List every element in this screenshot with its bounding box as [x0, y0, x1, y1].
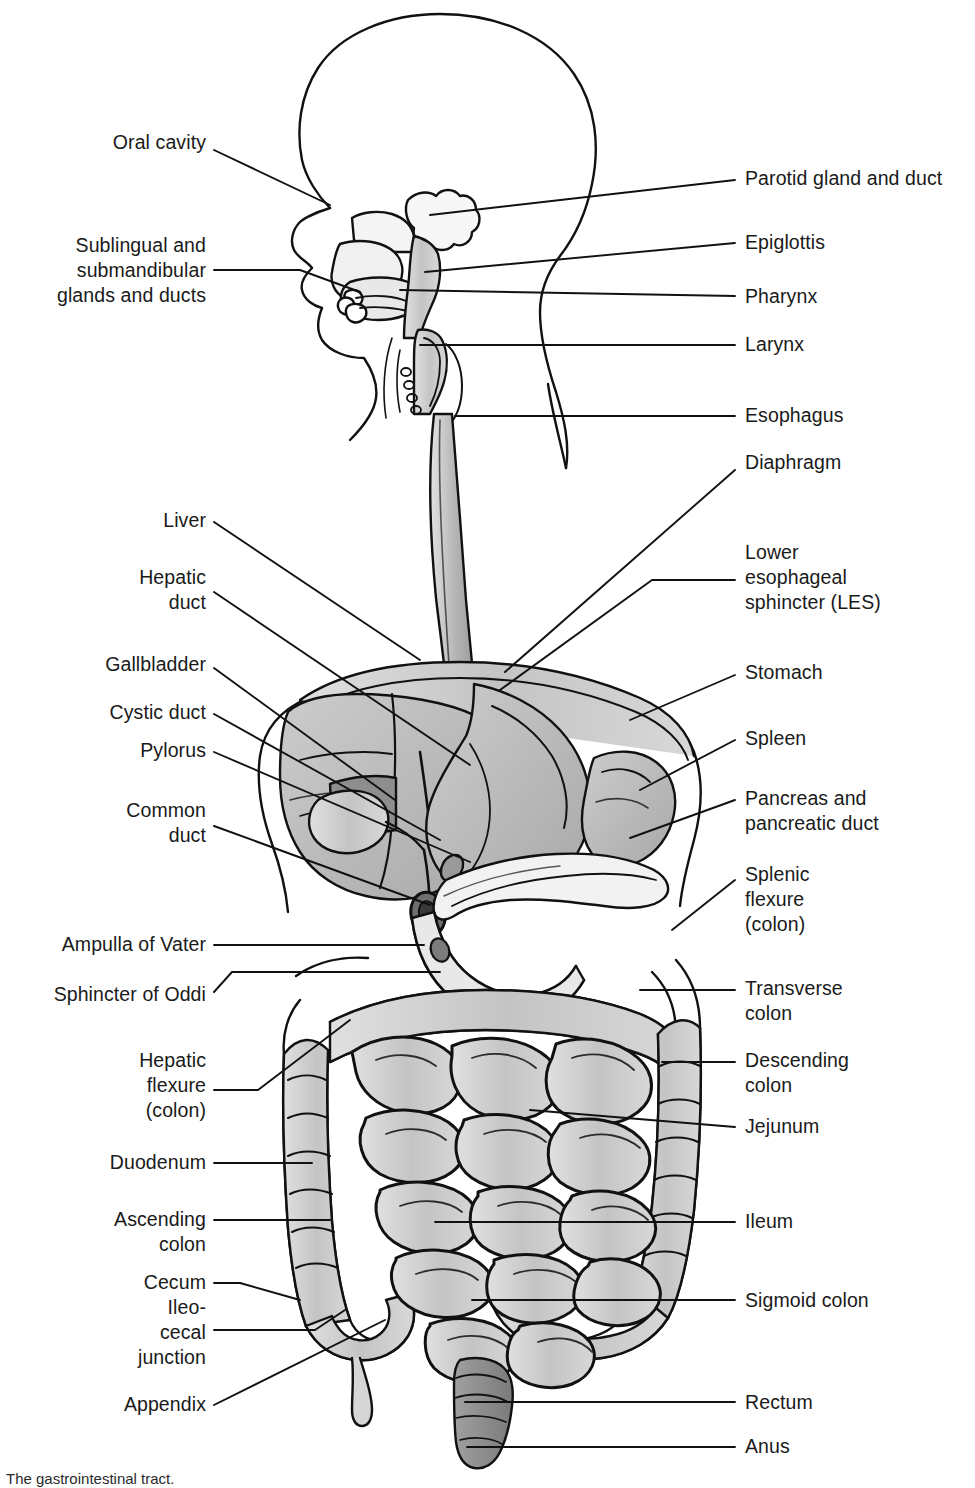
leader-cecum-ileocecal — [214, 1283, 300, 1300]
label-hepatic-duct: Hepatic duct — [8, 565, 206, 615]
label-appendix: Appendix — [8, 1392, 206, 1417]
label-ileum: Ileum — [745, 1209, 793, 1234]
label-esophagus: Esophagus — [745, 403, 843, 428]
label-jejunum: Jejunum — [745, 1114, 819, 1139]
label-gallbladder: Gallbladder — [8, 652, 206, 677]
label-duodenum: Duodenum — [8, 1150, 206, 1175]
leader-diaphragm — [505, 470, 735, 672]
appendix — [352, 1358, 372, 1426]
label-cystic-duct: Cystic duct — [8, 700, 206, 725]
figure-canvas: Oral cavitySublingual and submandibular … — [0, 0, 975, 1488]
label-pylorus: Pylorus — [8, 738, 206, 763]
leader-sphincter-of-oddi — [214, 972, 440, 992]
label-hepatic-flexure: Hepatic flexure (colon) — [8, 1048, 206, 1123]
label-epiglottis: Epiglottis — [745, 230, 825, 255]
label-splenic-flexure: Splenic flexure (colon) — [745, 862, 810, 937]
label-anus: Anus — [745, 1434, 790, 1459]
label-sublingual: Sublingual and submandibular glands and … — [8, 233, 206, 308]
label-parotid-gland: Parotid gland and duct — [745, 166, 942, 191]
label-transverse-colon: Transverse colon — [745, 976, 843, 1026]
leader-splenic-flexure — [672, 880, 735, 930]
label-liver: Liver — [8, 508, 206, 533]
label-sigmoid-colon: Sigmoid colon — [745, 1288, 869, 1313]
leader-liver — [214, 522, 420, 660]
esophagus — [430, 414, 474, 684]
leader-stomach — [630, 675, 735, 720]
label-stomach: Stomach — [745, 660, 823, 685]
label-pancreas: Pancreas and pancreatic duct — [745, 786, 879, 836]
label-rectum: Rectum — [745, 1390, 813, 1415]
label-oral-cavity: Oral cavity — [8, 130, 206, 155]
label-cecum-ileocecal: Cecum Ileo- cecal junction — [8, 1270, 206, 1370]
label-common-duct: Common duct — [8, 798, 206, 848]
label-spleen: Spleen — [745, 726, 806, 751]
label-ascending-colon: Ascending colon — [8, 1207, 206, 1257]
spleen — [582, 752, 675, 867]
label-larynx: Larynx — [745, 332, 804, 357]
rectum-anus — [454, 1358, 513, 1468]
label-lower-esophageal: Lower esophageal sphincter (LES) — [745, 540, 881, 615]
label-pharynx: Pharynx — [745, 284, 817, 309]
label-ampulla-of-vater: Ampulla of Vater — [8, 932, 206, 957]
label-sphincter-of-oddi: Sphincter of Oddi — [8, 982, 206, 1007]
label-diaphragm: Diaphragm — [745, 450, 841, 475]
figure-caption: The gastrointestinal tract. — [6, 1470, 174, 1487]
label-descending-colon: Descending colon — [745, 1048, 849, 1098]
